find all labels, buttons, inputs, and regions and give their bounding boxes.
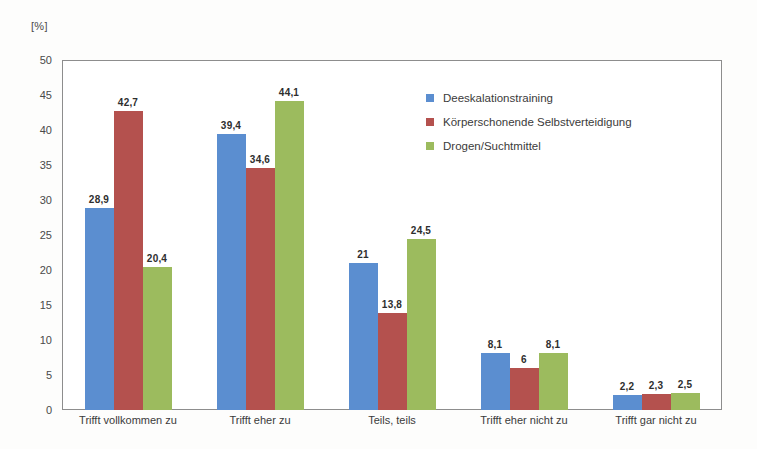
- y-axis-tick-20: 20: [40, 263, 52, 277]
- bar-value-label: 44,1: [279, 87, 299, 98]
- bar-value-label: 2,5: [678, 379, 693, 390]
- chart-page: [%] 50454035302520151050 28,942,720,439,…: [0, 0, 757, 449]
- y-axis: 50454035302520151050: [0, 53, 62, 417]
- chart-legend: DeeskalationstrainingKörperschonende Sel…: [426, 86, 706, 158]
- bar-value-label: 42,7: [118, 97, 138, 108]
- legend-item[interactable]: Körperschonende Selbstverteidigung: [426, 110, 706, 134]
- bar[interactable]: 8,1: [481, 353, 510, 410]
- x-axis-tick-label: Trifft vollkommen zu: [79, 414, 177, 426]
- legend-item-label: Deeskalationstraining: [443, 92, 553, 104]
- bar-value-label: 34,6: [250, 154, 270, 165]
- bar[interactable]: 8,1: [539, 353, 568, 410]
- legend-item-label: Drogen/Suchtmittel: [443, 140, 541, 152]
- bar-value-label: 2,2: [620, 381, 635, 392]
- bar[interactable]: 21: [349, 263, 378, 410]
- bar[interactable]: 20,4: [143, 267, 172, 410]
- bar-value-label: 24,5: [411, 225, 431, 236]
- bar-value-label: 21: [357, 249, 369, 260]
- x-axis-tick-label: Teils, teils: [368, 414, 416, 426]
- y-axis-tick-0: 0: [46, 403, 52, 417]
- y-axis-unit-label: [%]: [31, 20, 48, 32]
- bar-value-label: 6: [521, 354, 527, 365]
- bar[interactable]: 2,3: [642, 394, 671, 410]
- bar-group: 28,942,720,4: [85, 60, 172, 410]
- legend-item-label: Körperschonende Selbstverteidigung: [443, 116, 632, 128]
- x-axis: Trifft vollkommen zuTrifft eher zuTeils,…: [62, 414, 722, 438]
- bar[interactable]: 28,9: [85, 208, 114, 410]
- legend-swatch-icon: [426, 118, 434, 126]
- y-axis-tick-5: 5: [46, 368, 52, 382]
- bar[interactable]: 34,6: [246, 168, 275, 410]
- bar-value-label: 8,1: [488, 339, 503, 350]
- legend-swatch-icon: [426, 94, 434, 102]
- y-axis-tick-35: 35: [40, 158, 52, 172]
- bar[interactable]: 39,4: [217, 134, 246, 410]
- y-axis-tick-50: 50: [40, 53, 52, 67]
- legend-item[interactable]: Deeskalationstraining: [426, 86, 706, 110]
- x-axis-tick-label: Trifft gar nicht zu: [615, 414, 696, 426]
- bar-value-label: 28,9: [89, 194, 109, 205]
- bar-value-label: 20,4: [147, 253, 167, 264]
- bar-value-label: 13,8: [382, 299, 402, 310]
- y-axis-tick-10: 10: [40, 333, 52, 347]
- bar[interactable]: 2,2: [613, 395, 642, 410]
- bar[interactable]: 2,5: [671, 393, 700, 411]
- y-axis-tick-25: 25: [40, 228, 52, 242]
- bar-value-label: 8,1: [546, 339, 561, 350]
- y-axis-tick-40: 40: [40, 123, 52, 137]
- bar-value-label: 2,3: [649, 380, 664, 391]
- legend-item[interactable]: Drogen/Suchtmittel: [426, 134, 706, 158]
- bar[interactable]: 6: [510, 368, 539, 410]
- legend-swatch-icon: [426, 142, 434, 150]
- bar[interactable]: 13,8: [378, 313, 407, 410]
- x-axis-tick-label: Trifft eher zu: [229, 414, 290, 426]
- y-axis-tick-30: 30: [40, 193, 52, 207]
- x-axis-tick-label: Trifft eher nicht zu: [480, 414, 567, 426]
- bar-value-label: 39,4: [221, 120, 241, 131]
- bar-group: 39,434,644,1: [217, 60, 304, 410]
- bar[interactable]: 44,1: [275, 101, 304, 410]
- y-axis-tick-45: 45: [40, 88, 52, 102]
- bar-group: 2113,824,5: [349, 60, 436, 410]
- bar[interactable]: 24,5: [407, 239, 436, 411]
- bar[interactable]: 42,7: [114, 111, 143, 410]
- y-axis-tick-15: 15: [40, 298, 52, 312]
